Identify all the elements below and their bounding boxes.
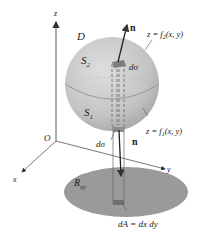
x-axis-label: x [12, 175, 17, 184]
x-axis [22, 141, 56, 172]
area-element-label: dA = dx dy [118, 219, 158, 229]
upper-surface-equation: z = f2(x, y) [146, 29, 183, 40]
diagram-canvas: z D S2 S1 n dσ z = f2(x, y) z = f1(x, y)… [0, 0, 204, 241]
normal-bottom-label: n [132, 136, 138, 147]
origin-label: O [44, 133, 51, 143]
y-axis-label: y [166, 165, 171, 174]
dsigma-bottom-label: dσ [96, 139, 106, 149]
normal-top-label: n [130, 22, 136, 33]
dsigma-top-label: dσ [129, 62, 139, 72]
z-axis-label: z [53, 9, 58, 18]
y-axis [56, 141, 165, 169]
surface-integral-diagram: z D S2 S1 n dσ z = f2(x, y) z = f1(x, y)… [0, 0, 204, 241]
lower-surface-equation: z = f1(x, y) [145, 126, 182, 137]
region-d-label: D [76, 30, 85, 42]
